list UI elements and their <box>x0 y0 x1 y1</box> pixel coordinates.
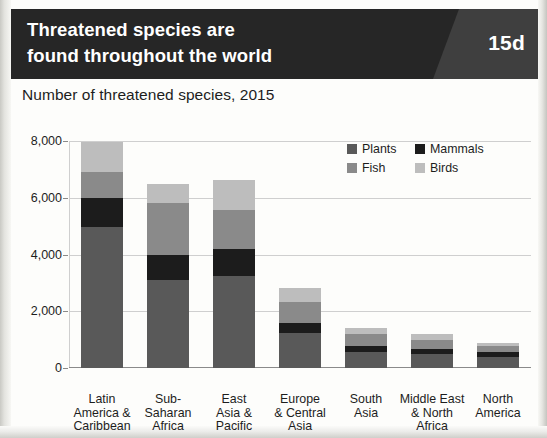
x-axis-label: NorthAmerica <box>459 393 537 420</box>
bar-latin-america-caribbean[interactable] <box>81 142 123 368</box>
header-band: Threatened species are found throughout … <box>11 9 538 79</box>
x-axis-label-line: America <box>459 407 537 421</box>
legend-item-birds[interactable]: Birds <box>415 161 484 175</box>
page-title-line-2: found throughout the world <box>27 43 427 69</box>
bar-segment-plants[interactable] <box>279 333 321 368</box>
bar-segment-plants[interactable] <box>147 280 189 368</box>
bar-segment-fish[interactable] <box>411 340 453 349</box>
bar-segment-birds[interactable] <box>279 288 321 302</box>
y-axis-tick-mark <box>63 141 68 142</box>
gridline <box>69 255 531 256</box>
y-axis-tick-mark <box>63 198 68 199</box>
bar-middle-east-north-africa[interactable] <box>411 334 453 368</box>
chart-container: 02,0004,0006,0008,000LatinAmerica &Carib… <box>11 120 538 425</box>
bar-europe-central-asia[interactable] <box>279 288 321 368</box>
bar-segment-birds[interactable] <box>81 142 123 172</box>
legend-swatch-fish-icon <box>347 163 357 173</box>
legend-item-plants[interactable]: Plants <box>347 142 409 156</box>
chart-legend: PlantsMammalsFishBirds <box>347 142 484 175</box>
page-number-badge: 15d <box>488 31 525 55</box>
plot-area: 02,0004,0006,0008,000LatinAmerica &Carib… <box>69 141 531 368</box>
bar-segment-fish[interactable] <box>213 210 255 249</box>
bar-segment-plants[interactable] <box>345 352 387 368</box>
y-axis-tick-label: 8,000 <box>31 134 62 148</box>
bar-north-america[interactable] <box>477 343 519 368</box>
legend-swatch-mammals-icon <box>415 144 425 154</box>
y-axis-tick-mark <box>63 368 68 369</box>
bar-segment-plants[interactable] <box>213 276 255 368</box>
bar-segment-plants[interactable] <box>411 354 453 368</box>
legend-label: Mammals <box>430 142 484 156</box>
paper-edge-right <box>538 0 547 438</box>
paper-edge-left <box>0 0 11 438</box>
bar-segment-fish[interactable] <box>279 302 321 324</box>
legend-swatch-birds-icon <box>415 163 425 173</box>
bar-segment-mammals[interactable] <box>81 198 123 227</box>
chart-subtitle: Number of threatened species, 2015 <box>22 86 274 104</box>
legend-label: Plants <box>362 142 396 156</box>
x-axis-label-line: Asia <box>261 420 339 434</box>
y-axis-tick-mark <box>63 311 68 312</box>
gridline <box>69 198 531 199</box>
bar-segment-fish[interactable] <box>81 172 123 198</box>
legend-label: Birds <box>430 161 458 175</box>
bar-segment-fish[interactable] <box>147 203 189 255</box>
y-axis-tick-label: 4,000 <box>31 248 62 262</box>
page-title: Threatened species are found throughout … <box>27 17 427 69</box>
x-axis-label-line: Africa <box>393 420 471 434</box>
bar-segment-fish[interactable] <box>345 334 387 346</box>
bar-sub-saharan-africa[interactable] <box>147 184 189 368</box>
y-axis-tick-label: 0 <box>55 361 62 375</box>
x-axis-label-line: North <box>459 393 537 407</box>
bar-segment-mammals[interactable] <box>213 249 255 276</box>
bar-segment-mammals[interactable] <box>147 255 189 280</box>
bar-east-asia-pacific[interactable] <box>213 180 255 368</box>
bar-segment-birds[interactable] <box>147 184 189 203</box>
y-axis-tick-label: 6,000 <box>31 191 62 205</box>
bar-segment-plants[interactable] <box>81 227 123 368</box>
y-axis-tick-mark <box>63 255 68 256</box>
bar-segment-plants[interactable] <box>477 357 519 368</box>
legend-label: Fish <box>362 161 385 175</box>
legend-swatch-plants-icon <box>347 144 357 154</box>
y-axis-tick-label: 2,000 <box>31 304 62 318</box>
page-title-line-1: Threatened species are <box>27 17 427 43</box>
bar-segment-birds[interactable] <box>213 180 255 210</box>
legend-item-mammals[interactable]: Mammals <box>415 142 484 156</box>
bar-south-asia[interactable] <box>345 328 387 368</box>
bar-segment-mammals[interactable] <box>279 323 321 332</box>
legend-item-fish[interactable]: Fish <box>347 161 409 175</box>
chart-page: Threatened species are found throughout … <box>0 0 547 438</box>
